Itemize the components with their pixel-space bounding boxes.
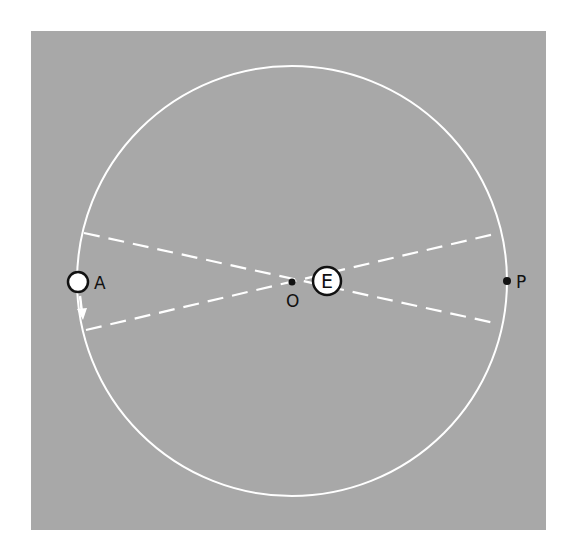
label-e: E <box>321 270 333 292</box>
center-point-o <box>289 279 296 286</box>
label-o: O <box>286 291 299 311</box>
planet-at-aphelion <box>68 272 88 292</box>
label-p: P <box>516 272 526 292</box>
perihelion-point <box>503 277 511 285</box>
label-a: A <box>94 273 106 293</box>
eccentric-orbit-diagram: A O E P <box>0 0 574 551</box>
background-panel <box>31 31 546 530</box>
